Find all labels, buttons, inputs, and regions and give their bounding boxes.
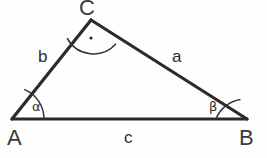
side-label-a: a [172,48,181,65]
side-a-line [91,20,247,119]
angle-label-alpha: α [32,100,41,113]
triangle-diagram: C A B a b c α β [0,0,267,158]
side-label-b: b [38,48,47,65]
side-label-c: c [124,129,133,146]
vertex-label-c: C [79,0,95,19]
vertex-label-b: B [239,127,254,149]
vertex-label-a: A [7,127,22,149]
right-angle-dot-icon [89,36,92,39]
triangle-drawing [0,0,267,158]
angle-label-beta: β [209,100,217,113]
side-b-line [12,20,91,119]
